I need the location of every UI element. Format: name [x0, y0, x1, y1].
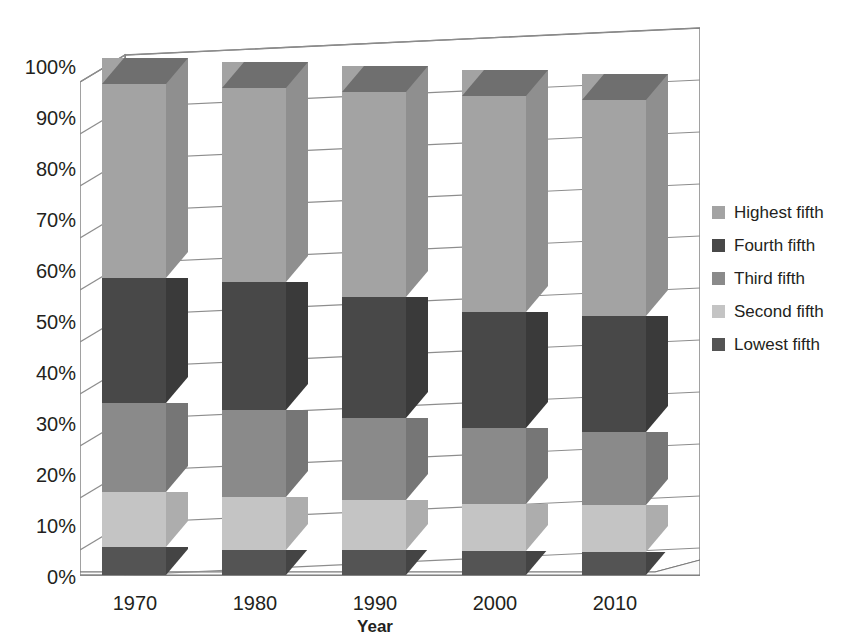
- legend-item-second-fifth[interactable]: Second fifth: [712, 295, 860, 328]
- segment-2000-fourth[interactable]: [462, 312, 526, 428]
- x-tick-2010: 2010: [555, 592, 675, 614]
- plot-area: [80, 20, 700, 585]
- segment-front: [102, 492, 166, 547]
- segment-front: [462, 312, 526, 428]
- segment-front: [582, 74, 646, 316]
- segment-1990-lowest[interactable]: [342, 550, 406, 575]
- segment-2000-highest[interactable]: [462, 70, 526, 312]
- legend-label: Highest fifth: [734, 204, 824, 222]
- segment-1970-lowest[interactable]: [102, 547, 166, 575]
- legend-swatch-icon: [712, 305, 725, 318]
- segment-front: [462, 551, 526, 575]
- bar-1980[interactable]: [222, 20, 286, 585]
- segment-front: [222, 550, 286, 575]
- segment-side: [406, 66, 428, 297]
- bar-2010[interactable]: [582, 20, 646, 585]
- segment-side: [166, 58, 188, 278]
- segment-2010-highest[interactable]: [582, 74, 646, 316]
- x-tick-2000: 2000: [435, 592, 555, 614]
- bar-1970[interactable]: [102, 20, 166, 585]
- segment-1980-lowest[interactable]: [222, 550, 286, 575]
- segment-2000-lowest[interactable]: [462, 551, 526, 575]
- bar-1990[interactable]: [342, 20, 406, 585]
- segment-1970-highest[interactable]: [102, 58, 166, 278]
- legend-label: Lowest fifth: [734, 336, 820, 354]
- legend-item-highest-fifth[interactable]: Highest fifth: [712, 196, 860, 229]
- x-tick-1990: 1990: [315, 592, 435, 614]
- x-tick-1980: 1980: [195, 592, 315, 614]
- segment-front: [342, 418, 406, 500]
- segment-front: [582, 316, 646, 432]
- segment-front: [462, 70, 526, 312]
- legend-label: Second fifth: [734, 303, 824, 321]
- legend-swatch-icon: [712, 272, 725, 285]
- segment-side: [526, 70, 548, 312]
- segment-front: [342, 500, 406, 550]
- segment-front: [222, 282, 286, 410]
- segment-front: [102, 58, 166, 278]
- x-tick-1970: 1970: [75, 592, 195, 614]
- legend-label: Third fifth: [734, 270, 805, 288]
- y-tick-70: 70%: [4, 210, 76, 230]
- segment-front: [102, 547, 166, 575]
- segment-2000-second[interactable]: [462, 504, 526, 551]
- y-tick-90: 90%: [4, 108, 76, 128]
- chart-legend: Highest fifth Fourth fifth Third fifth S…: [712, 196, 860, 361]
- legend-swatch-icon: [712, 239, 725, 252]
- legend-swatch-icon: [712, 206, 725, 219]
- segment-front: [582, 552, 646, 575]
- legend-item-lowest-fifth[interactable]: Lowest fifth: [712, 328, 860, 361]
- segment-1980-third[interactable]: [222, 410, 286, 497]
- segment-2010-lowest[interactable]: [582, 552, 646, 575]
- segment-1990-third[interactable]: [342, 418, 406, 500]
- y-tick-0: 0%: [4, 567, 76, 587]
- legend-swatch-icon: [712, 338, 725, 351]
- y-tick-80: 80%: [4, 159, 76, 179]
- y-tick-100: 100%: [4, 57, 76, 77]
- segment-front: [102, 403, 166, 492]
- y-tick-10: 10%: [4, 516, 76, 536]
- segment-1970-fourth[interactable]: [102, 278, 166, 403]
- y-tick-40: 40%: [4, 363, 76, 383]
- segment-1980-second[interactable]: [222, 497, 286, 550]
- segment-front: [342, 66, 406, 297]
- segment-front: [342, 297, 406, 418]
- segment-front: [582, 432, 646, 505]
- legend-label: Fourth fifth: [734, 237, 815, 255]
- segment-front: [222, 410, 286, 497]
- segment-side: [286, 62, 308, 282]
- segment-front: [222, 497, 286, 550]
- segment-2010-fourth[interactable]: [582, 316, 646, 432]
- segment-2010-second[interactable]: [582, 505, 646, 552]
- segment-1970-third[interactable]: [102, 403, 166, 492]
- legend-item-third-fifth[interactable]: Third fifth: [712, 262, 860, 295]
- legend-item-fourth-fifth[interactable]: Fourth fifth: [712, 229, 860, 262]
- segment-1990-highest[interactable]: [342, 66, 406, 297]
- segment-front: [462, 428, 526, 504]
- segment-2000-third[interactable]: [462, 428, 526, 504]
- segment-front: [342, 550, 406, 575]
- y-tick-30: 30%: [4, 414, 76, 434]
- x-axis-title: Year: [315, 618, 435, 636]
- segment-front: [582, 505, 646, 552]
- segment-1970-second[interactable]: [102, 492, 166, 547]
- segment-front: [222, 62, 286, 282]
- y-tick-60: 60%: [4, 261, 76, 281]
- segment-1990-second[interactable]: [342, 500, 406, 550]
- y-tick-50: 50%: [4, 312, 76, 332]
- y-tick-20: 20%: [4, 465, 76, 485]
- segment-front: [462, 504, 526, 551]
- segment-1990-fourth[interactable]: [342, 297, 406, 418]
- segment-1980-fourth[interactable]: [222, 282, 286, 410]
- bar-2000[interactable]: [462, 20, 526, 585]
- segment-side: [646, 74, 668, 316]
- segment-front: [102, 278, 166, 403]
- stacked-bar-chart: 100% 90% 80% 70% 60% 50% 40% 30% 20% 10%…: [0, 0, 860, 644]
- y-axis-tick-labels: 100% 90% 80% 70% 60% 50% 40% 30% 20% 10%…: [0, 0, 76, 644]
- segment-2010-third[interactable]: [582, 432, 646, 505]
- segment-1980-highest[interactable]: [222, 62, 286, 282]
